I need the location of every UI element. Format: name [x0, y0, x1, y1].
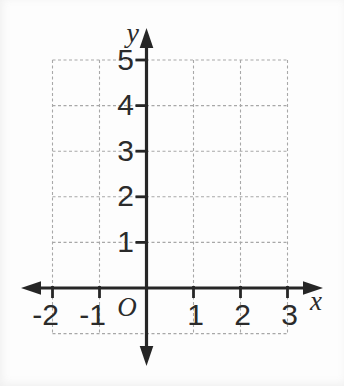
x-tick-label-3: 3 [281, 298, 298, 331]
x-tick-label--2: -2 [32, 298, 59, 331]
y-axis-label: y [124, 17, 140, 48]
coordinate-plane-svg: -2-112312345yxO [0, 0, 344, 386]
x-axis-arrow-left [21, 281, 41, 295]
y-tick-label-2: 2 [117, 179, 134, 212]
origin-label: O [117, 292, 137, 322]
y-axis-arrow-down [140, 346, 154, 366]
x-tick-label--1: -1 [79, 298, 106, 331]
y-tick-label-1: 1 [117, 225, 134, 258]
x-axis-label: x [309, 286, 322, 316]
y-tick-label-3: 3 [117, 134, 134, 167]
y-axis-arrow-up [140, 28, 154, 48]
y-tick-label-4: 4 [117, 88, 134, 121]
graph-figure: -2-112312345yxO [0, 0, 344, 386]
x-tick-label-2: 2 [234, 298, 251, 331]
x-tick-label-1: 1 [187, 298, 204, 331]
